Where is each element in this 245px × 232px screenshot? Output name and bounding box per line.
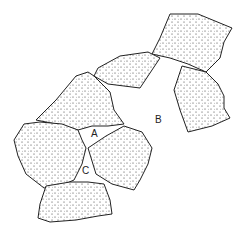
- diagram-canvas: A B C: [0, 0, 245, 232]
- label-c: C: [82, 166, 89, 176]
- stones-group: [14, 14, 232, 222]
- label-b: B: [155, 115, 162, 125]
- label-a: A: [91, 129, 98, 139]
- stone-arch-diagram: [0, 0, 245, 232]
- stone-upper-middle: [94, 52, 160, 88]
- stone-left: [14, 122, 86, 188]
- stone-bottom: [38, 182, 112, 222]
- stone-top-right: [152, 14, 232, 72]
- stone-right: [174, 66, 230, 132]
